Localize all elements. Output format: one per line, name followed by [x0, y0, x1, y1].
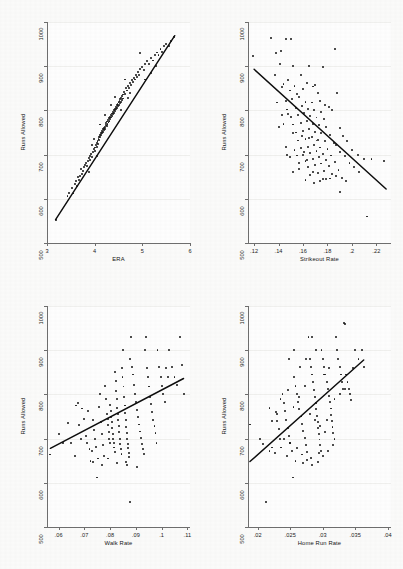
data-point — [323, 366, 325, 368]
y-tick-mark — [245, 243, 248, 244]
data-point — [265, 501, 267, 503]
y-tick-mark — [44, 110, 47, 111]
data-point — [163, 45, 165, 47]
data-point — [315, 402, 317, 404]
data-point — [262, 443, 264, 445]
data-point — [271, 420, 273, 422]
data-point — [279, 63, 281, 65]
data-point — [121, 453, 123, 455]
x-tick-mark — [162, 527, 163, 530]
scatter-panel-homerun: 5006007008009001000.02.025.03.035.04Runs… — [201, 284, 403, 569]
data-point — [307, 166, 309, 168]
data-point — [338, 169, 340, 171]
data-point — [322, 455, 324, 457]
data-point — [303, 151, 305, 153]
data-point — [353, 166, 355, 168]
x-tick-label: .035 — [343, 532, 367, 538]
data-point — [301, 454, 303, 456]
data-point — [259, 438, 261, 440]
gridline-y — [248, 22, 391, 23]
data-point — [97, 143, 99, 145]
data-point — [130, 336, 132, 338]
data-point — [72, 193, 74, 195]
data-point — [141, 443, 143, 445]
data-point — [285, 100, 287, 102]
data-point — [146, 60, 148, 62]
data-point — [113, 112, 115, 114]
data-point — [144, 79, 146, 81]
data-point — [102, 444, 104, 446]
data-point — [174, 376, 176, 378]
y-axis-title-strikeout: Runs Allowed — [221, 97, 227, 167]
y-tick-mark — [245, 155, 248, 156]
gridline-y — [248, 199, 391, 200]
data-point — [76, 185, 78, 187]
data-point — [318, 156, 320, 158]
data-point — [145, 336, 147, 338]
data-point — [320, 111, 322, 113]
data-point — [127, 447, 129, 449]
data-point — [312, 123, 314, 125]
data-point — [339, 366, 341, 368]
data-point — [125, 461, 127, 463]
data-point — [323, 170, 325, 172]
x-tick-mark — [110, 527, 111, 530]
data-point — [131, 366, 133, 368]
x-tick-mark — [187, 527, 188, 530]
y-axis-line-walk — [47, 306, 48, 527]
data-point — [298, 168, 300, 170]
data-point — [91, 450, 93, 452]
data-point — [115, 380, 117, 382]
x-axis-title-strikeout: Strikeout Rate — [248, 256, 391, 262]
data-point — [134, 79, 136, 81]
data-point — [318, 433, 320, 435]
data-point — [301, 105, 303, 107]
data-point — [345, 374, 347, 376]
data-point — [322, 178, 324, 180]
data-point — [290, 38, 292, 40]
data-point — [318, 124, 320, 126]
data-point — [322, 66, 324, 68]
data-point — [348, 388, 350, 390]
data-point — [288, 358, 290, 360]
data-point — [77, 402, 79, 404]
data-point — [152, 419, 154, 421]
x-tick-mark — [303, 243, 304, 246]
data-point — [332, 432, 334, 434]
data-point — [295, 460, 297, 462]
data-point — [341, 381, 343, 383]
data-point — [281, 86, 283, 88]
data-point — [307, 108, 309, 110]
x-tick-mark — [376, 243, 377, 246]
data-point — [98, 406, 100, 408]
data-point — [345, 180, 347, 182]
y-tick-label: 900 — [239, 65, 245, 91]
data-point — [316, 150, 318, 152]
data-point — [150, 403, 152, 405]
data-point — [122, 376, 124, 378]
data-point — [110, 104, 112, 106]
data-point — [331, 173, 333, 175]
data-point — [99, 136, 101, 138]
data-point — [334, 398, 336, 400]
y-tick-mark — [245, 66, 248, 67]
data-point — [344, 155, 346, 157]
data-point — [308, 128, 310, 130]
data-point — [302, 130, 304, 132]
data-point — [121, 367, 123, 369]
y-tick-label: 700 — [239, 438, 245, 464]
data-point — [312, 171, 314, 173]
data-point — [276, 413, 278, 415]
data-point — [124, 93, 126, 95]
data-point — [126, 432, 128, 434]
data-point — [336, 92, 338, 94]
data-point — [118, 431, 120, 433]
data-point — [94, 438, 96, 440]
regression-line-era — [47, 22, 190, 243]
data-point — [300, 74, 302, 76]
data-point — [327, 450, 329, 452]
data-point — [87, 410, 89, 412]
gridline-y — [248, 394, 391, 395]
data-point — [306, 159, 308, 161]
data-point — [147, 376, 149, 378]
